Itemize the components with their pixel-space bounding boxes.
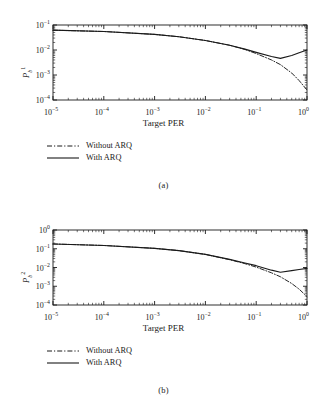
legend-row-without-arq-b: Without ARQ — [46, 345, 132, 357]
y-tick-label: 10−2 — [22, 44, 50, 55]
y-tick-label: 10−4 — [22, 299, 50, 310]
x-axis-title-a: Target PER — [0, 118, 327, 128]
legend-row-with-arq-b: With ARQ — [46, 357, 132, 369]
x-tick-label: 100 — [298, 311, 309, 322]
y-tick-label: 10−1 — [22, 19, 50, 30]
x-tick-label: 10−2 — [196, 311, 210, 322]
y-tick-label: 10−3 — [22, 280, 50, 291]
legend-key-solid-a — [46, 153, 80, 163]
legend-label-with-arq-b: With ARQ — [86, 357, 121, 369]
legend-label-without-arq-b: Without ARQ — [86, 345, 132, 357]
panel-b: Pb2 Target PER Without ARQ With ARQ (b) … — [0, 205, 327, 410]
caption-b: (b) — [0, 385, 327, 395]
legend-key-dashdot-b — [46, 346, 80, 356]
legend-label-without-arq-a: Without ARQ — [86, 140, 132, 152]
x-tick-label: 10−5 — [44, 106, 58, 117]
y-axis-label-b-sup: 2 — [20, 272, 26, 275]
y-axis-label-b-sub: b — [27, 275, 33, 278]
figure-container: Pb1 Target PER Without ARQ With ARQ (a) … — [0, 0, 327, 410]
x-axis-title-b: Target PER — [0, 323, 327, 333]
x-tick-label: 100 — [298, 106, 309, 117]
series-line-without-arq — [53, 30, 307, 90]
y-tick-label: 10−2 — [22, 262, 50, 273]
x-tick-label: 10−4 — [95, 311, 109, 322]
legend-a: Without ARQ With ARQ — [46, 140, 132, 164]
x-tick-label: 10−4 — [95, 106, 109, 117]
x-tick-label: 10−1 — [247, 106, 261, 117]
legend-label-with-arq-a: With ARQ — [86, 152, 121, 164]
legend-key-solid-b — [46, 358, 80, 368]
legend-key-dashdot-a — [46, 141, 80, 151]
x-tick-label: 10−2 — [196, 106, 210, 117]
legend-row-with-arq-a: With ARQ — [46, 152, 132, 164]
y-tick-label: 10−4 — [22, 94, 50, 105]
legend-row-without-arq-a: Without ARQ — [46, 140, 132, 152]
panel-a: Pb1 Target PER Without ARQ With ARQ (a) … — [0, 0, 327, 205]
caption-a: (a) — [0, 180, 327, 190]
legend-b: Without ARQ With ARQ — [46, 345, 132, 369]
y-tick-label: 100 — [22, 224, 50, 235]
x-tick-label: 10−1 — [247, 311, 261, 322]
series-line-with-arq — [53, 30, 307, 58]
series-line-with-arq — [53, 244, 307, 272]
series-line-without-arq — [53, 244, 307, 297]
x-tick-label: 10−3 — [146, 311, 160, 322]
x-tick-label: 10−3 — [146, 106, 160, 117]
y-tick-label: 10−1 — [22, 243, 50, 254]
x-tick-label: 10−5 — [44, 311, 58, 322]
y-tick-label: 10−3 — [22, 69, 50, 80]
